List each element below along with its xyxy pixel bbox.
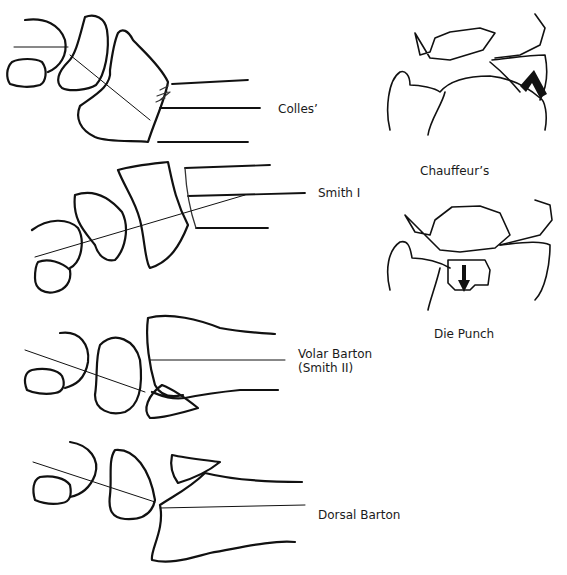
die-punch-fracture-diagram bbox=[388, 200, 552, 310]
label-dorsal-barton: Dorsal Barton bbox=[318, 508, 400, 522]
label-die-punch: Die Punch bbox=[434, 327, 494, 341]
label-chauffeur: Chauffeur’s bbox=[420, 164, 489, 178]
label-colles: Colles’ bbox=[278, 102, 318, 116]
volar-barton-fracture-diagram bbox=[25, 316, 285, 418]
label-volar-barton: Volar Barton bbox=[298, 347, 372, 361]
colles-fracture-diagram bbox=[7, 16, 260, 142]
smith1-fracture-diagram bbox=[32, 162, 305, 292]
dorsal-barton-fracture-diagram bbox=[33, 442, 305, 562]
label-volar-barton-smith-ii: (Smith II) bbox=[298, 361, 353, 375]
label-smith-i: Smith I bbox=[318, 186, 360, 200]
chauffeur-fracture-diagram bbox=[388, 14, 547, 135]
